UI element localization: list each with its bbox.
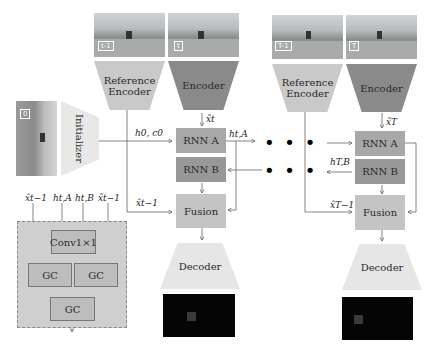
reference-encoder-label-2: Encoder: [286, 88, 328, 99]
rnn-a-t: RNN A: [176, 128, 226, 153]
fusion-input-x-tilde-prev: x̃t−1: [98, 193, 120, 203]
frame-tag: t-1: [98, 41, 114, 51]
h-TB-label: hT,B: [330, 157, 350, 167]
gc-label: GC: [65, 304, 81, 315]
reference-encoder-label-1: Reference: [104, 75, 156, 86]
rnn-b-T: RNN B: [355, 159, 405, 184]
x-T-label: x̃T: [386, 117, 397, 127]
current-frame-T: T: [346, 15, 417, 59]
h-tA-label: ht,A: [229, 129, 248, 139]
reference-encoder-label-2: Encoder: [108, 86, 150, 97]
frame-tag: T-1: [275, 41, 292, 51]
rider-figure: [40, 133, 45, 142]
rider-figure: [306, 31, 311, 39]
fusion-input-h-tB: ht,B: [75, 193, 94, 203]
decoder-label: Decoder: [361, 262, 404, 273]
mask-blob: [187, 312, 196, 321]
gc-label: GC: [88, 270, 104, 281]
output-mask-T: [342, 297, 413, 340]
fusion-label: Fusion: [363, 207, 397, 218]
frame-tag: 0: [20, 109, 30, 119]
current-frame-t: t: [168, 13, 239, 57]
reference-frame-T-1: T-1: [272, 15, 343, 59]
rider-figure: [377, 31, 382, 39]
reference-encoder-label-1: Reference: [282, 77, 334, 88]
rider-figure: [198, 31, 204, 39]
encoder-label: Encoder: [182, 80, 224, 91]
x-T-prev-label: x̂T−1: [330, 200, 354, 210]
fusion-t: Fusion: [176, 194, 226, 228]
encoder-label: Encoder: [360, 83, 402, 94]
rnn-b-label: RNN B: [183, 164, 219, 175]
gc-bottom-block: GC: [50, 297, 95, 321]
decoder-label: Decoder: [179, 261, 222, 272]
fusion-T: Fusion: [355, 195, 405, 230]
conv-1x1-block: Conv1×1: [51, 230, 96, 254]
ellipsis-bottom: • • •: [264, 160, 317, 181]
conv-label: Conv1×1: [50, 237, 97, 248]
fusion-label: Fusion: [184, 206, 218, 217]
rnn-a-T: RNN A: [355, 131, 405, 156]
initializer-label: Initializer: [75, 114, 86, 163]
fusion-input-x-prev: x̂t−1: [25, 193, 47, 203]
gc-left-block: GC: [28, 263, 72, 287]
initial-frame: 0: [16, 101, 57, 176]
x-t-label: x̃t: [206, 114, 215, 124]
fusion-input-h-tA: ht,A: [53, 193, 72, 203]
x-prev-label: x̂t−1: [136, 198, 158, 208]
rnn-b-t: RNN B: [176, 157, 226, 182]
gc-label: GC: [42, 270, 58, 281]
frame-tag: T: [349, 41, 359, 51]
h0-c0-label: h0, c0: [135, 128, 163, 138]
gc-right-block: GC: [74, 263, 118, 287]
rnn-a-label: RNN A: [183, 135, 218, 146]
rnn-a-label: RNN A: [362, 138, 397, 149]
reference-frame-t-1: t-1: [94, 13, 165, 57]
rider-figure: [126, 31, 132, 39]
mask-blob: [354, 315, 363, 324]
ellipsis-top: • • •: [264, 132, 317, 153]
rnn-b-label: RNN B: [362, 166, 398, 177]
output-mask-t: [163, 294, 235, 337]
frame-tag: t: [174, 41, 183, 51]
